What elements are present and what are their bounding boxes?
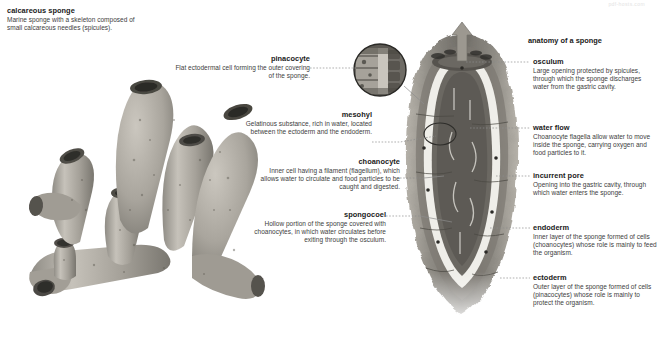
sponge-cross-section-diagram	[392, 22, 532, 332]
anatomy-section-title: anatomy of a sponge	[528, 36, 602, 45]
pinacocyte-title: pinacocyte	[170, 54, 310, 64]
ectoderm-title: ectoderm	[533, 273, 657, 283]
mesohyl-title: mesohyl	[232, 110, 372, 120]
choanocyte-title: choanocyte	[260, 157, 400, 167]
watermark-text: pdf-hosts.com	[608, 1, 645, 7]
water-flow-title: water flow	[533, 123, 657, 133]
label-incurrent-pore: incurrent pore Opening into the gastric …	[533, 171, 657, 197]
label-ectoderm: ectoderm Outer layer of the sponge forme…	[533, 273, 657, 307]
osculum-description: Large opening protected by spicules, thr…	[533, 67, 657, 91]
ectoderm-description: Outer layer of the sponge formed of cell…	[533, 283, 657, 307]
figure-canvas: pdf-hosts.com calcareous sponge Marine s…	[0, 0, 659, 337]
osculum-title: osculum	[533, 57, 657, 67]
incurrent-pore-title: incurrent pore	[533, 171, 657, 181]
label-choanocyte: choanocyte Inner cell having a filament …	[260, 157, 400, 191]
choanocyte-description: Inner cell having a filament (flagellum)…	[260, 167, 400, 191]
endoderm-description: Inner layer of the sponge formed of cell…	[533, 233, 657, 257]
incurrent-pore-description: Opening into the gastric cavity, through…	[533, 181, 657, 197]
spongocoel-description: Hollow portion of the sponge covered wit…	[246, 220, 386, 244]
mesohyl-description: Gelatinous substance, rich in water, loc…	[232, 120, 372, 136]
label-mesohyl: mesohyl Gelatinous substance, rich in wa…	[232, 110, 372, 136]
calcareous-sponge-title: calcareous sponge	[7, 6, 147, 16]
pinacocyte-description: Flat ectodermal cell forming the outer c…	[170, 64, 310, 80]
label-water-flow: water flow Choanocyte flagella allow wat…	[533, 123, 657, 157]
water-flow-description: Choanocyte flagella allow water to move …	[533, 133, 657, 157]
label-endoderm: endoderm Inner layer of the sponge forme…	[533, 223, 657, 257]
label-pinacocyte: pinacocyte Flat ectodermal cell forming …	[170, 54, 310, 80]
label-osculum: osculum Large opening protected by spicu…	[533, 57, 657, 91]
calcareous-sponge-photo	[24, 60, 274, 320]
calcareous-sponge-description: Marine sponge with a skeleton composed o…	[7, 16, 147, 32]
label-spongocoel: spongocoel Hollow portion of the sponge …	[246, 210, 386, 244]
spongocoel-title: spongocoel	[246, 210, 386, 220]
calcareous-sponge-caption: calcareous sponge Marine sponge with a s…	[7, 6, 147, 32]
endoderm-title: endoderm	[533, 223, 657, 233]
